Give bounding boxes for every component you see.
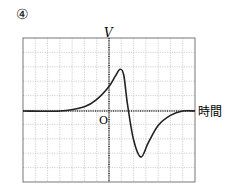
x-axis-label: 時間 (198, 105, 222, 119)
origin-label: O (99, 114, 108, 127)
y-axis-label: V (104, 26, 114, 40)
waveform-chart: V O 時間 (0, 0, 230, 192)
